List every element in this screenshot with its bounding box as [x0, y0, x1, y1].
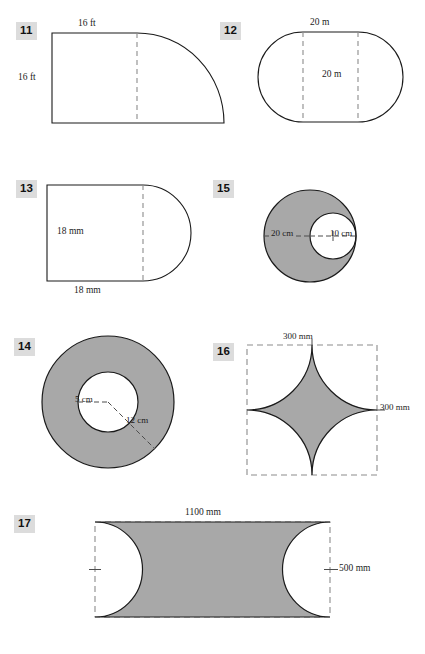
dimension-label-16-right: 300 mm: [380, 403, 410, 412]
figure-number-badge-14: 14: [14, 338, 35, 356]
dimension-label-15-inner: 10 cm: [330, 229, 352, 238]
figure-14: 14 5 cm 12 cm: [0, 320, 210, 485]
figure-13: 13 18 mm 18 mm: [0, 165, 205, 310]
figure-number-badge-15: 15: [213, 180, 234, 198]
shape-outline-17: [95, 522, 330, 617]
dimension-label-14-outer: 12 cm: [126, 416, 148, 425]
figure-16: 16 300 mm 300 mm: [205, 325, 425, 485]
dimension-label-12-top: 20 m: [310, 18, 329, 28]
figure-11: 11 16 ft 16 ft: [0, 0, 240, 150]
dimension-label-11-left: 16 ft: [18, 73, 36, 83]
dimension-label-16-top: 300 mm: [283, 332, 313, 341]
dimension-label-17-top: 1100 mm: [185, 508, 221, 518]
figure-number-badge-16: 16: [213, 343, 234, 361]
figure-number-badge-12: 12: [220, 22, 241, 40]
figure-17-drawing: [0, 495, 425, 654]
shape-outline-16: [247, 345, 377, 475]
figure-12: 12 20 m 20 m: [210, 0, 425, 150]
worksheet-page: 11 16 ft 16 ft 12 20 m 20 m 13: [0, 0, 425, 654]
figure-number-badge-11: 11: [16, 22, 37, 40]
figure-number-badge-13: 13: [16, 180, 37, 198]
dimension-label-14-inner: 5 cm: [75, 395, 93, 404]
dimension-label-17-right: 500 mm: [339, 564, 370, 574]
dimension-label-13-left: 18 mm: [57, 227, 84, 237]
shape-outline-11: [52, 33, 224, 123]
dimension-label-13-bottom: 18 mm: [74, 286, 101, 296]
dimension-label-12-inner: 20 m: [322, 70, 341, 80]
figure-15-drawing: [205, 165, 425, 310]
figure-number-badge-17: 17: [14, 515, 35, 533]
figure-15: 15 20 cm 10 cm: [205, 165, 425, 310]
dimension-label-15-outer: 20 cm: [271, 229, 293, 238]
dimension-label-11-top: 16 ft: [78, 19, 96, 29]
figure-17: 17 1100 mm 500 mm: [0, 495, 425, 654]
